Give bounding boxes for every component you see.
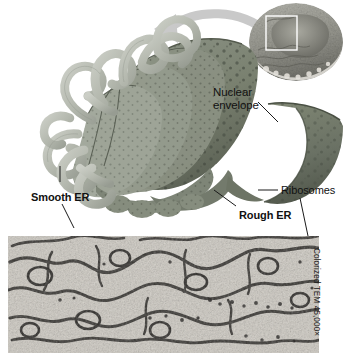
label-nuclear-envelope: Nuclear envelope [213,86,259,112]
label-rough-er: Rough ER [239,209,291,221]
label-smooth-er: Smooth ER [31,191,89,203]
micrograph-credit: Colorized TEM 45,000× [312,248,321,336]
cell-overview-inset [249,3,343,81]
label-ribosomes: Ribosomes [281,184,335,196]
label-nuclear-envelope-line2: envelope [213,99,259,112]
er-figure [0,0,344,360]
label-nuclear-envelope-line1: Nuclear [213,86,259,99]
tem-micrograph [8,236,319,353]
